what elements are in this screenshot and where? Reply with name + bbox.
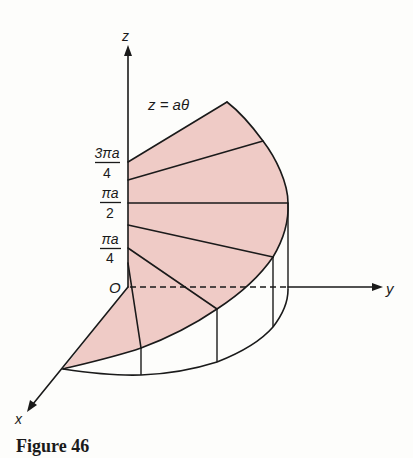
z-axis-arrowhead: [124, 45, 132, 56]
z-tick-3pi4: 3πa 4: [95, 145, 120, 181]
tick-numerator: πa: [101, 231, 118, 247]
figure-caption: Figure 46: [16, 436, 89, 457]
equation-label: z = aθ: [147, 96, 189, 113]
y-axis-label: y: [385, 280, 395, 297]
tick-numerator: 3πa: [95, 145, 120, 161]
z-axis-label: z: [121, 28, 129, 44]
x-axis-label: x: [14, 411, 23, 427]
z-tick-pi2: πa 2: [100, 185, 121, 221]
helicoid-figure: z y x O z = aθ 3πa 4 πa 2 πa 4: [0, 0, 413, 458]
z-tick-pi4: πa 4: [100, 231, 121, 266]
tick-denominator: 4: [106, 250, 114, 266]
origin-label: O: [109, 279, 121, 296]
tick-denominator: 2: [106, 205, 114, 221]
y-axis-arrowhead: [372, 283, 383, 291]
tick-denominator: 4: [103, 165, 111, 181]
tick-numerator: πa: [101, 185, 118, 201]
